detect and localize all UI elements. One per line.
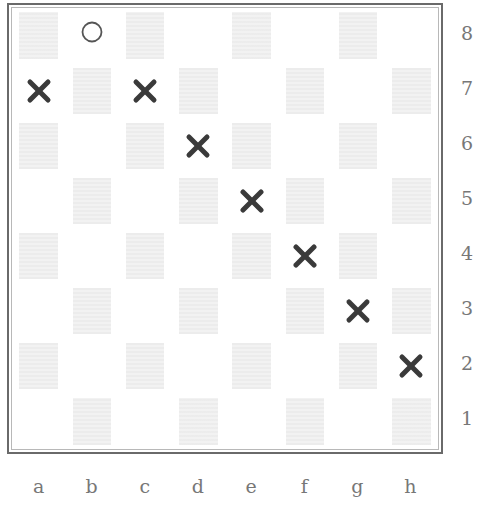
square-h2[interactable] bbox=[385, 339, 438, 394]
square-c5[interactable] bbox=[119, 173, 172, 228]
rank-label-3: 3 bbox=[452, 284, 482, 339]
square-e2[interactable] bbox=[225, 339, 278, 394]
square-c7[interactable] bbox=[119, 63, 172, 118]
square-g1[interactable] bbox=[332, 394, 385, 449]
square-h1[interactable] bbox=[385, 394, 438, 449]
square-a8[interactable] bbox=[12, 8, 65, 63]
square-c8[interactable] bbox=[119, 8, 172, 63]
square-g5[interactable] bbox=[332, 173, 385, 228]
file-label-c: c bbox=[118, 468, 171, 504]
rank-label-2: 2 bbox=[452, 339, 482, 394]
square-f7[interactable] bbox=[278, 63, 331, 118]
square-h7[interactable] bbox=[385, 63, 438, 118]
square-f3[interactable] bbox=[278, 284, 331, 339]
square-b6[interactable] bbox=[65, 118, 118, 173]
square-h4[interactable] bbox=[385, 229, 438, 284]
cross-mark-icon bbox=[26, 78, 52, 104]
cross-mark-icon bbox=[239, 188, 265, 214]
square-f2[interactable] bbox=[278, 339, 331, 394]
square-c2[interactable] bbox=[119, 339, 172, 394]
square-e6[interactable] bbox=[225, 118, 278, 173]
square-c4[interactable] bbox=[119, 229, 172, 284]
square-d4[interactable] bbox=[172, 229, 225, 284]
square-b8[interactable] bbox=[65, 8, 118, 63]
rank-labels: 87654321 bbox=[452, 8, 482, 449]
square-d5[interactable] bbox=[172, 173, 225, 228]
square-a4[interactable] bbox=[12, 229, 65, 284]
square-e8[interactable] bbox=[225, 8, 278, 63]
file-label-d: d bbox=[171, 468, 224, 504]
square-d3[interactable] bbox=[172, 284, 225, 339]
square-e3[interactable] bbox=[225, 284, 278, 339]
cross-mark-icon bbox=[132, 78, 158, 104]
square-b2[interactable] bbox=[65, 339, 118, 394]
square-g6[interactable] bbox=[332, 118, 385, 173]
rank-label-7: 7 bbox=[452, 63, 482, 118]
file-labels: abcdefgh bbox=[12, 468, 437, 504]
square-a7[interactable] bbox=[12, 63, 65, 118]
square-g4[interactable] bbox=[332, 229, 385, 284]
file-label-e: e bbox=[225, 468, 278, 504]
square-a1[interactable] bbox=[12, 394, 65, 449]
square-d1[interactable] bbox=[172, 394, 225, 449]
cross-mark-icon bbox=[345, 298, 371, 324]
square-g2[interactable] bbox=[332, 339, 385, 394]
square-e4[interactable] bbox=[225, 229, 278, 284]
square-f6[interactable] bbox=[278, 118, 331, 173]
square-g8[interactable] bbox=[332, 8, 385, 63]
square-g7[interactable] bbox=[332, 63, 385, 118]
square-a5[interactable] bbox=[12, 173, 65, 228]
square-f4[interactable] bbox=[278, 229, 331, 284]
square-d8[interactable] bbox=[172, 8, 225, 63]
square-f5[interactable] bbox=[278, 173, 331, 228]
square-h3[interactable] bbox=[385, 284, 438, 339]
rank-label-1: 1 bbox=[452, 394, 482, 449]
file-label-h: h bbox=[384, 468, 437, 504]
square-f8[interactable] bbox=[278, 8, 331, 63]
cross-mark-icon bbox=[185, 133, 211, 159]
square-a2[interactable] bbox=[12, 339, 65, 394]
file-label-a: a bbox=[12, 468, 65, 504]
square-d6[interactable] bbox=[172, 118, 225, 173]
square-c3[interactable] bbox=[119, 284, 172, 339]
square-h6[interactable] bbox=[385, 118, 438, 173]
square-c1[interactable] bbox=[119, 394, 172, 449]
square-b4[interactable] bbox=[65, 229, 118, 284]
square-a6[interactable] bbox=[12, 118, 65, 173]
square-b1[interactable] bbox=[65, 394, 118, 449]
chessboard bbox=[7, 3, 443, 454]
file-label-g: g bbox=[331, 468, 384, 504]
square-a3[interactable] bbox=[12, 284, 65, 339]
square-b7[interactable] bbox=[65, 63, 118, 118]
rank-label-8: 8 bbox=[452, 8, 482, 63]
square-e5[interactable] bbox=[225, 173, 278, 228]
square-e1[interactable] bbox=[225, 394, 278, 449]
rank-label-4: 4 bbox=[452, 229, 482, 284]
circle-mark-icon bbox=[80, 20, 104, 44]
square-h5[interactable] bbox=[385, 173, 438, 228]
square-d7[interactable] bbox=[172, 63, 225, 118]
square-b5[interactable] bbox=[65, 173, 118, 228]
rank-label-6: 6 bbox=[452, 118, 482, 173]
square-b3[interactable] bbox=[65, 284, 118, 339]
rank-label-5: 5 bbox=[452, 173, 482, 228]
square-g3[interactable] bbox=[332, 284, 385, 339]
square-d2[interactable] bbox=[172, 339, 225, 394]
file-label-f: f bbox=[278, 468, 331, 504]
square-h8[interactable] bbox=[385, 8, 438, 63]
cross-mark-icon bbox=[398, 353, 424, 379]
square-c6[interactable] bbox=[119, 118, 172, 173]
square-e7[interactable] bbox=[225, 63, 278, 118]
cross-mark-icon bbox=[292, 243, 318, 269]
file-label-b: b bbox=[65, 468, 118, 504]
square-f1[interactable] bbox=[278, 394, 331, 449]
board-grid bbox=[11, 7, 439, 450]
